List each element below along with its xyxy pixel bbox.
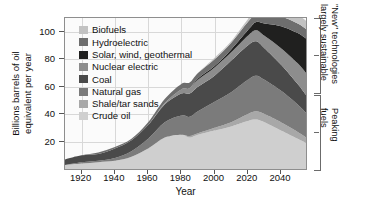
upper-bracket-label-line1: "New" technologies: [330, 4, 340, 84]
upper-bracket-label-line2: largely sustainable: [319, 4, 329, 81]
chart-figure: Billions barrels of oil equivalent per y…: [0, 0, 366, 220]
legend-swatch: [79, 38, 88, 46]
legend-item: Hydroelectric: [79, 36, 192, 48]
x-tick-mark: [280, 170, 281, 174]
legend-item: Biofuels: [79, 24, 192, 36]
legend-label: Coal: [92, 75, 112, 85]
x-tick-mark: [147, 170, 148, 174]
legend-label: Natural gas: [92, 87, 141, 97]
legend-label: Shale/tar sands: [92, 99, 159, 109]
legend-swatch: [79, 100, 88, 108]
x-tick-mark: [114, 170, 115, 174]
y-tick-label: 100: [39, 25, 55, 36]
legend-swatch: [79, 75, 88, 83]
legend-label: Hydroelectric: [92, 38, 148, 48]
lower-bracket-label-line1: Peaking: [330, 108, 340, 142]
y-tick-label: 20: [44, 135, 55, 146]
legend-item: Coal: [79, 73, 192, 85]
legend-swatch: [79, 51, 88, 59]
legend-label: Biofuels: [92, 25, 126, 35]
legend-label: Solar, wind, geothermal: [92, 50, 192, 60]
legend-swatch: [79, 88, 88, 96]
legend-item: Natural gas: [79, 85, 192, 97]
legend-swatch: [79, 26, 88, 34]
legend-swatch: [79, 112, 88, 120]
x-tick-mark: [214, 170, 215, 174]
y-tick-label: 40: [44, 108, 55, 119]
y-axis-title: Billions barrels of oil equivalent per y…: [10, 14, 33, 174]
legend-label: Crude oil: [92, 111, 130, 121]
legend-item: Crude oil: [79, 110, 192, 122]
lower-bracket-label-line2: fuels: [319, 108, 329, 128]
legend-item: Shale/tar sands: [79, 98, 192, 110]
x-tick-mark: [81, 170, 82, 174]
y-tick-label: 60: [44, 80, 55, 91]
x-axis-title: Year: [64, 186, 307, 197]
legend-item: Solar, wind, geothermal: [79, 49, 192, 61]
x-tick-mark: [180, 170, 181, 174]
upper-bracket-label: "New" technologies largely sustainable: [318, 4, 340, 84]
legend-swatch: [79, 63, 88, 71]
y-axis-title-line1: Billions barrels of oil: [10, 51, 21, 135]
legend-label: Nuclear electric: [92, 62, 158, 72]
chart-legend: BiofuelsHydroelectricSolar, wind, geothe…: [79, 24, 192, 122]
y-tick-label: 80: [44, 53, 55, 64]
y-axis-title-line2: equivalent per year: [21, 53, 32, 134]
x-tick-mark: [247, 170, 248, 174]
legend-item: Nuclear electric: [79, 61, 192, 73]
lower-bracket-label: Peaking fuels: [318, 108, 340, 142]
